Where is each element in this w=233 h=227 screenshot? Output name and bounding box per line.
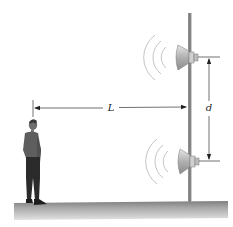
lower-sound-waves-icon: [146, 139, 168, 184]
listener-person-icon: [23, 119, 47, 205]
label-d: d: [204, 103, 214, 113]
upper-speaker-icon: [176, 45, 198, 70]
diagram-canvas: L d: [0, 0, 233, 227]
label-l: L: [106, 103, 117, 113]
pole: [188, 13, 192, 203]
upper-sound-waves-icon: [144, 35, 166, 80]
diagram-svg: [0, 0, 233, 227]
